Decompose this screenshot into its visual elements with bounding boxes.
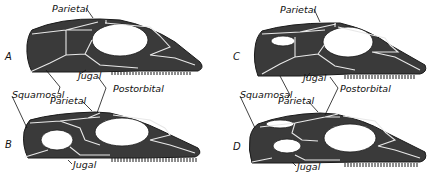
label-jugal-d: Jugal — [295, 161, 321, 172]
label-parietal-b: Parietal — [50, 95, 86, 106]
label-postorbital-left: Postorbital — [113, 83, 164, 94]
label-jugal-b: Jugal — [71, 159, 97, 170]
label-parietal-a: Parietal — [52, 3, 88, 14]
label-parietal-c: Parietal — [280, 4, 316, 15]
label-postorbital-right: Postorbital — [340, 83, 391, 94]
panel-label-a: A — [4, 51, 12, 62]
skull-a — [27, 19, 202, 75]
skull-b — [24, 112, 200, 162]
label-parietal-d: Parietal — [278, 95, 314, 106]
skull-d — [249, 113, 425, 167]
label-jugal-a: Jugal — [76, 70, 102, 81]
skull-diagram: A C B D Parietal Jugal Parietal Jugal Sq… — [0, 0, 435, 180]
skull-c — [254, 23, 425, 79]
panel-label-c: C — [233, 51, 240, 62]
panel-label-b: B — [5, 139, 12, 150]
panel-label-d: D — [233, 141, 241, 152]
label-jugal-c: Jugal — [301, 72, 327, 83]
